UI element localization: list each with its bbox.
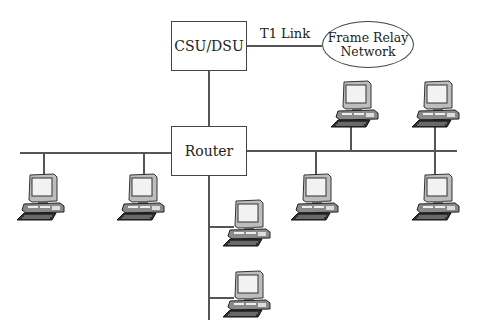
workstation-icon: [330, 80, 380, 128]
workstation-icon: [411, 173, 461, 221]
csu-router-line: [208, 70, 210, 126]
csu-dsu-box: CSU/DSU: [171, 21, 247, 71]
workstation-icon: [290, 173, 340, 221]
frame-relay-network-ellipse: Frame Relay Network: [322, 21, 414, 68]
workstation-icon: [16, 173, 66, 221]
workstation-icon: [116, 173, 166, 221]
router-box: Router: [171, 126, 247, 176]
t1-link-label: T1 Link: [260, 26, 310, 41]
frame-relay-label-line1: Frame Relay: [328, 31, 409, 45]
workstation-icon: [222, 270, 272, 318]
router-label: Router: [185, 143, 234, 159]
t1-link-line: [246, 45, 322, 47]
frame-relay-label-line2: Network: [340, 45, 395, 59]
pc6-drop-line: [350, 126, 352, 150]
csu-dsu-label: CSU/DSU: [174, 38, 243, 54]
right-bus-line: [246, 150, 457, 152]
workstation-icon: [411, 80, 461, 128]
pc7-pc8-drop-line: [434, 126, 436, 176]
workstation-icon: [222, 199, 272, 247]
